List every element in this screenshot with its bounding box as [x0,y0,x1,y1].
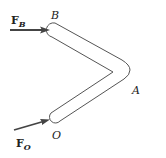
point-label-A: A [131,84,140,97]
bent-bar-diagram: FB FO B A O [0,0,166,158]
point-label-B: B [50,9,59,22]
force-label-FO: FO [16,137,31,152]
force-arrow-FO [14,119,50,130]
force-arrow-FB [10,27,50,34]
bent-bar [46,23,130,123]
point-label-O: O [52,129,61,142]
force-label-FB: FB [11,14,26,29]
